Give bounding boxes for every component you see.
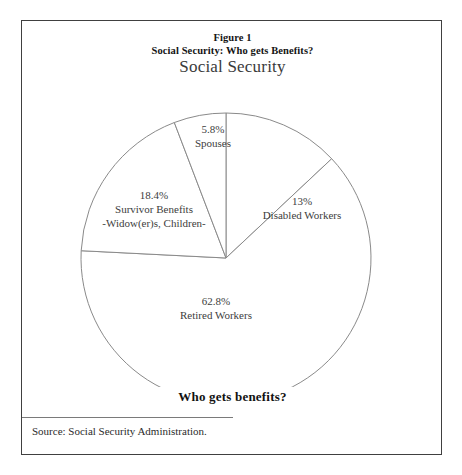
figure-number: Figure 1 bbox=[22, 31, 443, 44]
figure-frame: Figure 1 Social Security: Who gets Benef… bbox=[21, 20, 442, 455]
chart-footer-caption: Who gets benefits? bbox=[22, 389, 443, 405]
pie-chart-svg: 13%Disabled Workers62.8%Retired Workers1… bbox=[22, 57, 443, 387]
pie-slice-label: Disabled Workers bbox=[263, 209, 342, 221]
pie-slice-value: 5.8% bbox=[202, 123, 225, 135]
pie-slice-value: 18.4% bbox=[140, 189, 168, 201]
pie-chart: Social Security 13%Disabled Workers62.8%… bbox=[22, 57, 443, 387]
pie-slice-value: 62.8% bbox=[202, 295, 230, 307]
pie-slice-label: Retired Workers bbox=[180, 309, 252, 321]
source-divider bbox=[22, 417, 233, 418]
pie-slice-value: 13% bbox=[292, 195, 312, 207]
pie-slice-group bbox=[81, 113, 371, 387]
figure-title: Social Security: Who gets Benefits? bbox=[22, 44, 443, 57]
pie-slice-label: Spouses bbox=[195, 137, 231, 149]
pie-slice-label: -Widow(er)s, Children- bbox=[102, 217, 206, 230]
figure-heading: Figure 1 Social Security: Who gets Benef… bbox=[22, 31, 443, 57]
pie-slice-label: Survivor Benefits bbox=[115, 203, 193, 215]
source-note: Source: Social Security Administration. bbox=[32, 425, 207, 437]
